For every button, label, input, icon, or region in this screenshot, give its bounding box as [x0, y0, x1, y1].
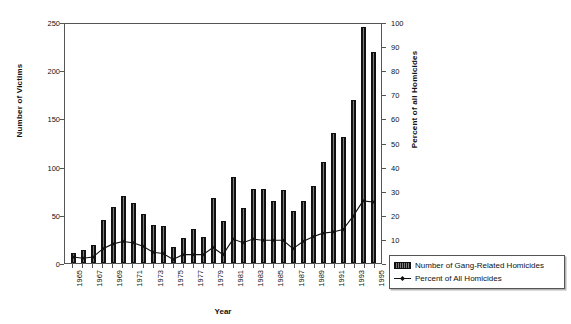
x-tick-label-1987: 1987 — [297, 270, 306, 287]
bar-swatch-icon — [394, 262, 411, 269]
x-tickmark — [143, 264, 144, 268]
legend-item-bars: Number of Gang-Related Homicides — [394, 259, 560, 272]
y-tickmark-right — [382, 95, 386, 96]
y-tick-right-90: 90 — [391, 43, 399, 52]
y-axis-left-title: Number of Victims — [15, 46, 24, 156]
y-tick-left-100: 100 — [47, 163, 60, 172]
x-tickmark — [102, 264, 103, 268]
line-marker-1989 — [311, 235, 315, 239]
y-tickmark-right — [382, 264, 386, 265]
line-marker-1990 — [321, 231, 325, 235]
x-tickmark — [324, 264, 325, 268]
y-tickmark-right — [382, 119, 386, 120]
y-tick-right-100: 100 — [391, 19, 404, 28]
percent-line-path — [73, 201, 373, 260]
line-marker-1985 — [271, 238, 275, 242]
x-tickmark — [163, 264, 164, 268]
y-tickmark-right — [382, 216, 386, 217]
y-tick-right-10: 10 — [391, 235, 399, 244]
x-tickmark — [173, 264, 174, 268]
legend-label: Percent of All Homicides — [415, 274, 502, 283]
x-tickmark — [132, 264, 133, 268]
x-tickmark — [203, 264, 204, 268]
x-tick-label-1977: 1977 — [196, 270, 205, 287]
y-axis-right-title: Percent of all Homicides — [410, 45, 419, 155]
line-marker-1984 — [261, 238, 265, 242]
x-tickmark — [183, 264, 184, 268]
line-marker-1971 — [131, 241, 135, 245]
y-tick-left-50: 50 — [52, 211, 60, 220]
x-tickmark — [364, 264, 365, 268]
line-marker-1982 — [241, 241, 245, 245]
x-tickmark — [213, 264, 214, 268]
x-tick-label-1995: 1995 — [377, 270, 386, 287]
line-marker-1995 — [371, 200, 375, 204]
line-series — [65, 24, 381, 263]
x-tick-label-1989: 1989 — [317, 270, 326, 287]
y-tickmark-right — [382, 192, 386, 193]
line-marker-1966 — [81, 256, 85, 260]
y-tick-right-50: 50 — [391, 139, 399, 148]
x-tickmark — [112, 264, 113, 268]
y-tick-right-80: 80 — [391, 67, 399, 76]
x-tick-label-1993: 1993 — [357, 270, 366, 287]
x-tick-label-1965: 1965 — [75, 270, 84, 287]
x-tickmark — [344, 264, 345, 268]
y-tick-left-200: 200 — [47, 67, 60, 76]
x-axis-title: Year — [64, 307, 382, 316]
chart-figure: 250200150100500 Number of Victims 100908… — [0, 0, 571, 324]
x-tickmark — [263, 264, 264, 268]
line-marker-1983 — [251, 237, 255, 241]
plot-area — [64, 23, 382, 264]
x-tickmark — [354, 264, 355, 268]
y-tick-right-40: 40 — [391, 163, 399, 172]
legend-label: Number of Gang-Related Homicides — [415, 261, 544, 270]
y-tickmark-right — [382, 168, 386, 169]
legend-item-line: Percent of All Homicides — [394, 272, 560, 285]
x-tick-label-1975: 1975 — [176, 270, 185, 287]
line-marker-1977 — [191, 253, 195, 257]
y-tickmark-right — [382, 47, 386, 48]
y-tick-left-150: 150 — [47, 115, 60, 124]
x-tick-label-1967: 1967 — [95, 270, 104, 287]
y-tick-right-60: 60 — [391, 115, 399, 124]
y-axis-left: 250200150100500 — [0, 0, 64, 288]
x-tick-label-1969: 1969 — [115, 270, 124, 287]
x-tick-label-1991: 1991 — [337, 270, 346, 287]
line-diamond-marker-icon — [394, 275, 411, 282]
x-tickmark — [193, 264, 194, 268]
x-tickmark — [283, 264, 284, 268]
y-tickmark-right — [382, 23, 386, 24]
x-axis-labels: 1965196719691971197319751977197919811983… — [64, 270, 382, 304]
line-marker-1965 — [71, 255, 75, 259]
x-tickmark — [72, 264, 73, 268]
x-tickmark — [374, 264, 375, 268]
x-tickmark — [233, 264, 234, 268]
y-tick-right-20: 20 — [391, 211, 399, 220]
x-tickmark — [223, 264, 224, 268]
x-tickmark — [153, 264, 154, 268]
x-tickmark — [92, 264, 93, 268]
chart-legend: Number of Gang-Related Homicides Percent… — [389, 255, 565, 289]
x-tickmark — [243, 264, 244, 268]
y-tickmark-right — [382, 144, 386, 145]
x-tick-label-1985: 1985 — [276, 270, 285, 287]
line-marker-1976 — [181, 253, 185, 257]
line-marker-1970 — [121, 240, 125, 244]
y-tick-right-30: 30 — [391, 187, 399, 196]
x-tick-label-1983: 1983 — [256, 270, 265, 287]
x-tick-label-1971: 1971 — [135, 270, 144, 287]
y-tick-right-70: 70 — [391, 91, 399, 100]
x-tickmark — [304, 264, 305, 268]
x-tickmark — [122, 264, 123, 268]
x-tick-label-1973: 1973 — [156, 270, 165, 287]
x-tick-label-1979: 1979 — [216, 270, 225, 287]
x-tickmark — [273, 264, 274, 268]
y-tickmark-right — [382, 71, 386, 72]
x-tickmark — [314, 264, 315, 268]
y-tick-left-250: 250 — [47, 19, 60, 28]
x-tickmark — [82, 264, 83, 268]
x-tickmark — [253, 264, 254, 268]
y-tickmark-right — [382, 240, 386, 241]
line-marker-1969 — [111, 242, 115, 246]
